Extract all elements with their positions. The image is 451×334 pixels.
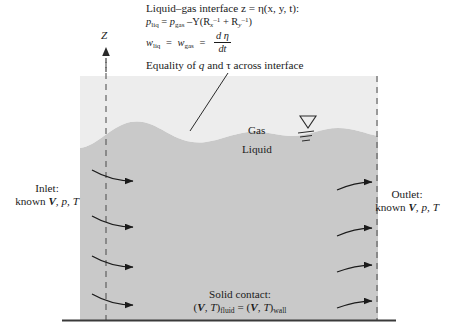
outlet-label-line1: Outlet: bbox=[363, 188, 451, 201]
interface-pressure-equation: pliq = pgas –Y(Rx–1 + Ry–1) bbox=[146, 16, 303, 30]
inlet-label-line2: known V, p, T bbox=[4, 195, 90, 208]
deta-dt-fraction: d η dt bbox=[214, 30, 231, 54]
solid-contact-line1: Solid contact: bbox=[155, 288, 325, 301]
interface-kinematic-equation: wliq = wgas = d η dt bbox=[146, 31, 303, 55]
interface-flux-equality: Equality of q and τ across interface bbox=[146, 59, 303, 72]
diagram-canvas: Z Liquid–gas interface z = η(x, y, t): p… bbox=[0, 0, 451, 334]
interface-annotation-line1: Liquid–gas interface z = η(x, y, t): bbox=[146, 2, 303, 15]
z-axis-label: Z bbox=[101, 29, 107, 42]
inlet-label: Inlet: known V, p, T bbox=[4, 182, 90, 207]
outlet-label-line2: known V, p, T bbox=[363, 201, 451, 214]
interface-annotation: Liquid–gas interface z = η(x, y, t): pli… bbox=[146, 2, 303, 73]
inlet-label-line1: Inlet: bbox=[4, 182, 90, 195]
outlet-label: Outlet: known V, p, T bbox=[363, 188, 451, 213]
gas-region-label: Gas bbox=[248, 124, 265, 137]
liquid-region-label: Liquid bbox=[242, 143, 272, 156]
solid-contact-equation: (V, T)fluid = (V, T)wall bbox=[155, 301, 325, 316]
solid-contact-label: Solid contact: (V, T)fluid = (V, T)wall bbox=[155, 288, 325, 315]
